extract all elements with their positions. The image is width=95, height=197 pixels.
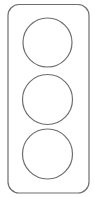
bottom-light-circle	[23, 129, 73, 179]
top-light-circle	[23, 18, 72, 67]
middle-light-circle	[23, 75, 73, 125]
traffic-light-diagram	[0, 0, 95, 197]
traffic-light-housing	[8, 5, 89, 194]
traffic-light-svg	[0, 0, 95, 197]
